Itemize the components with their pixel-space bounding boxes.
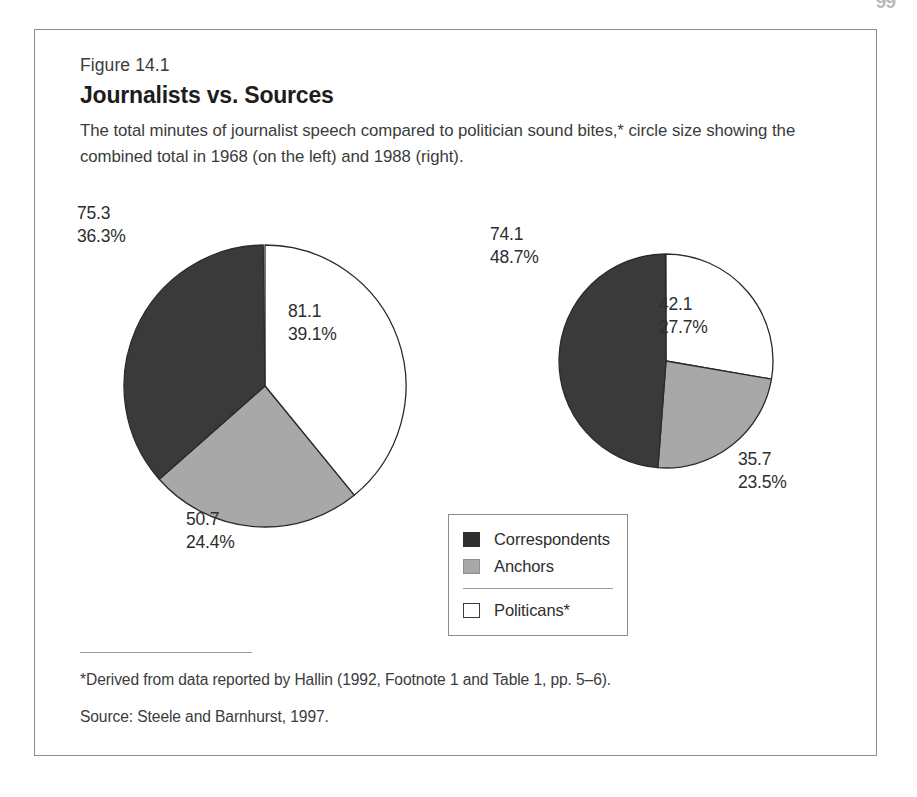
- footnote-text: *Derived from data reported by Hallin (1…: [80, 671, 611, 689]
- pie-slice-1968-correspondents: [124, 245, 265, 479]
- figure-number-label: Figure 14.1: [80, 55, 170, 76]
- pie-chart-1988: [559, 254, 773, 468]
- figure-description: The total minutes of journalist speech c…: [80, 118, 835, 170]
- legend-item-anchors: Anchors: [449, 553, 627, 580]
- slice-label-1968-anchors: 50.7 24.4%: [186, 508, 235, 554]
- slice-label-1988-politicans: 42.1 27.7%: [659, 293, 708, 339]
- note-separator-rule: [80, 652, 252, 653]
- pie-slice-1968-anchors: [159, 386, 354, 527]
- legend-label-correspondents: Correspondents: [494, 530, 610, 549]
- figure-inner: Figure 14.1 Journalists vs. Sources The …: [35, 30, 876, 755]
- figure-title: Journalists vs. Sources: [80, 82, 334, 109]
- source-text: Source: Steele and Barnhurst, 1997.: [80, 708, 329, 726]
- white-square-swatch-icon: [463, 603, 480, 618]
- legend-item-correspondents: Correspondents: [449, 526, 627, 553]
- figure-box: Figure 14.1 Journalists vs. Sources The …: [34, 29, 877, 756]
- gray-square-swatch-icon: [463, 559, 480, 574]
- legend-item-politicans: Politicans*: [449, 597, 627, 624]
- legend-divider: [463, 588, 613, 589]
- pie-slice-1968-politicans: [265, 245, 406, 495]
- slice-label-1968-politicans: 81.1 39.1%: [288, 300, 337, 346]
- slice-label-1988-correspondents: 74.1 48.7%: [490, 223, 539, 269]
- dark-square-swatch-icon: [463, 532, 480, 547]
- page-number-artifact: 99: [876, 0, 895, 13]
- pie-slice-1988-correspondents: [559, 254, 666, 468]
- slice-label-1968-correspondents: 75.3 36.3%: [77, 202, 126, 248]
- legend-label-politicans: Politicans*: [494, 601, 570, 620]
- slice-label-1988-anchors: 35.7 23.5%: [738, 448, 787, 494]
- legend-label-anchors: Anchors: [494, 557, 554, 576]
- legend: Correspondents Anchors Politicans*: [448, 514, 628, 636]
- pie-chart-1968: [124, 245, 406, 527]
